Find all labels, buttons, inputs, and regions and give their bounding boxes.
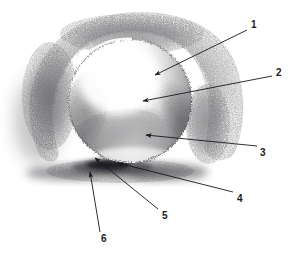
callout-label-5: 5 bbox=[162, 211, 168, 221]
callout-label-6: 6 bbox=[101, 234, 107, 244]
callout-label-1: 1 bbox=[251, 20, 257, 30]
callout-label-4: 4 bbox=[237, 194, 243, 204]
sphere-shading-illustration bbox=[0, 0, 296, 253]
cast-shadow bbox=[26, 159, 208, 183]
callout-label-3: 3 bbox=[260, 148, 266, 158]
callout-label-2: 2 bbox=[276, 68, 282, 78]
drawing-canvas: 1 2 3 4 5 6 bbox=[0, 0, 296, 253]
sphere bbox=[51, 39, 210, 172]
